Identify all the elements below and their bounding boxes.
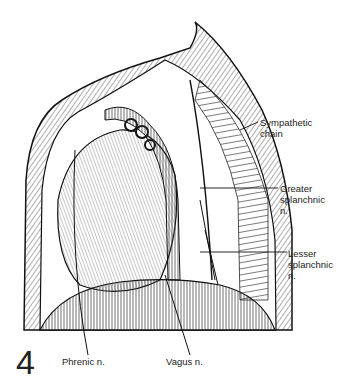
label-vagus-nerve: Vagus n. — [166, 356, 203, 367]
label-phrenic-nerve: Phrenic n. — [62, 356, 105, 367]
label-sympathetic-chain: Sympathetic chain — [260, 117, 312, 139]
figure-number: 4 — [16, 345, 35, 379]
anatomical-illustration: Sympathetic chain Greater splanchnic n. … — [0, 0, 361, 380]
label-greater-splanchnic-nerve: Greater splanchnic n. — [280, 183, 325, 216]
label-lesser-splanchnic-nerve: Lesser splanchnic n. — [288, 248, 333, 281]
